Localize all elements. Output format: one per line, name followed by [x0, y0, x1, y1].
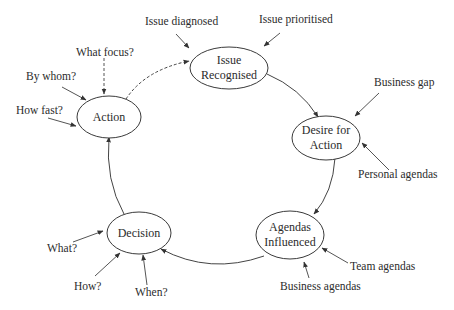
node-label: Action: [310, 138, 343, 152]
arrow-personal-agendas: [362, 143, 389, 170]
label-business-agendas: Business agendas: [280, 280, 361, 293]
arrow-by-whom: [62, 87, 86, 100]
label-team-agendas: Team agendas: [350, 260, 416, 273]
arrow-how-fast: [48, 118, 76, 126]
label-issue-prioritised: Issue prioritised: [259, 13, 333, 26]
node-label: Agendas: [269, 220, 311, 234]
label-what-focus: What focus?: [76, 46, 134, 58]
label-how: How?: [74, 280, 101, 292]
node-label: Action: [93, 110, 126, 124]
edge-desire-to-agendas: [314, 158, 335, 214]
arrow-how: [95, 253, 120, 276]
arrow-issue-diagnosed: [176, 34, 189, 48]
node-desire-for-action: Desire for Action: [292, 116, 360, 160]
agenda-cycle-diagram: Issue Recognised Desire for Action Agend…: [0, 0, 454, 310]
label-when: When?: [135, 286, 168, 298]
node-label: Influenced: [264, 235, 315, 249]
label-what: What?: [47, 242, 77, 254]
node-issue-recognised: Issue Recognised: [190, 47, 268, 89]
node-agendas-influenced: Agendas Influenced: [256, 211, 324, 259]
node-decision: Decision: [107, 212, 171, 254]
node-label: Desire for: [302, 123, 350, 137]
arrow-business-agendas: [304, 262, 309, 278]
label-personal-agendas: Personal agendas: [358, 168, 438, 181]
arrow-what: [73, 231, 103, 242]
label-by-whom: By whom?: [26, 70, 76, 83]
edge-agendas-to-decision: [161, 249, 264, 264]
arrow-issue-prioritised: [264, 33, 280, 46]
edge-action-to-issue-dashed: [126, 61, 189, 99]
node-label: Decision: [118, 226, 161, 240]
node-label: Issue: [217, 53, 242, 67]
arrow-business-gap: [355, 93, 379, 116]
node-action: Action: [77, 96, 141, 138]
arrow-team-agendas: [322, 248, 348, 263]
label-business-gap: Business gap: [374, 76, 435, 89]
arrow-when: [143, 255, 147, 285]
label-how-fast: How fast?: [16, 104, 63, 116]
edge-issue-to-desire: [267, 74, 318, 117]
edge-decision-to-action: [108, 137, 124, 214]
label-issue-diagnosed: Issue diagnosed: [145, 15, 218, 28]
node-label: Recognised: [201, 68, 257, 82]
